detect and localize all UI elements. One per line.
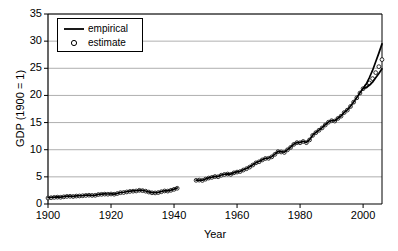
x-axis-label: Year: [8, 228, 398, 240]
estimate-point: [377, 65, 381, 69]
x-tick-label-2000: 2000: [341, 210, 385, 221]
y-tick-label-10: 10: [8, 144, 42, 155]
x-tick-label-1980: 1980: [278, 210, 322, 221]
chart-legend: empirical estimate: [57, 18, 143, 52]
x-tick-label-1960: 1960: [215, 210, 259, 221]
series-estimate-markers: [46, 58, 384, 200]
legend-line-icon: [63, 21, 85, 36]
x-tick-marks: [48, 204, 363, 208]
empirical-line: [196, 69, 382, 180]
y-tick-label-20: 20: [8, 89, 42, 100]
estimate-point: [374, 71, 378, 75]
x-tick-label-1940: 1940: [152, 210, 196, 221]
gdp-growth-chart: GDP (1900 = 1) Year 05101520253035 19001…: [0, 0, 398, 251]
y-tick-label-5: 5: [8, 171, 42, 182]
y-tick-label-25: 25: [8, 62, 42, 73]
legend-circle-icon: [63, 35, 85, 50]
legend-item-empirical: empirical: [58, 21, 142, 36]
y-tick-label-30: 30: [8, 35, 42, 46]
y-tick-label-0: 0: [8, 198, 42, 209]
legend-label-estimate: estimate: [88, 36, 126, 49]
y-axis-label: GDP (1900 = 1): [14, 70, 26, 147]
y-tick-label-35: 35: [8, 8, 42, 19]
y-tick-label-15: 15: [8, 117, 42, 128]
legend-label-empirical: empirical: [88, 22, 128, 35]
x-tick-label-1920: 1920: [89, 210, 133, 221]
x-tick-label-1900: 1900: [26, 210, 70, 221]
legend-item-estimate: estimate: [58, 35, 142, 50]
estimate-point: [380, 58, 384, 62]
